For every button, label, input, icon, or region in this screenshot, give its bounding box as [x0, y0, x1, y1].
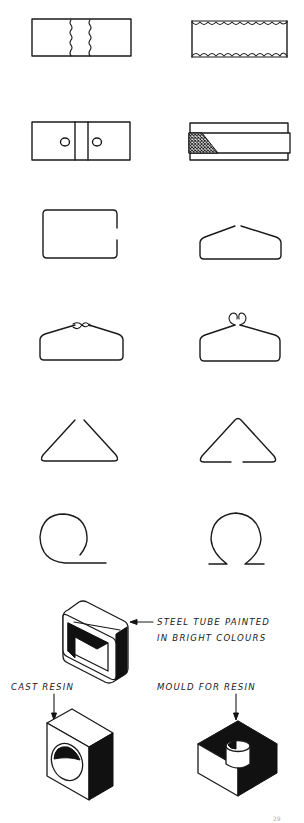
steel-tube-illustration	[63, 601, 128, 683]
omega-wire-shape	[209, 513, 264, 564]
cast-resin-arrow	[52, 694, 57, 720]
hanger-open-top-shape	[200, 226, 281, 259]
open-rectangle-wire-shape	[43, 210, 117, 258]
hanger-curl-loops-shape	[200, 313, 280, 361]
mould-arrow	[234, 694, 239, 720]
triangle-open-apex-shape	[41, 420, 117, 461]
rectangle-scalloped-shape	[192, 21, 287, 57]
label-cast-resin: CAST RESIN	[11, 682, 74, 692]
page-number: 29	[273, 815, 281, 822]
label-steel-tube-line2: IN BRIGHT COLOURS	[157, 633, 266, 643]
steel-tube-arrow	[130, 620, 153, 625]
mould-illustration	[198, 721, 277, 796]
rectangle-two-holes-shape	[32, 122, 130, 160]
triangle-open-base-shape	[200, 419, 275, 463]
diagram-canvas: STEEL TUBE PAINTED IN BRIGHT COLOURS CAS…	[0, 0, 304, 823]
hanger-twisted-loop-shape	[40, 323, 123, 360]
label-steel-tube-line1: STEEL TUBE PAINTED	[157, 617, 270, 627]
label-mould-for-resin: MOULD FOR RESIN	[157, 682, 256, 692]
cast-resin-block-illustration	[46, 709, 113, 800]
loop-with-tail-shape	[40, 514, 106, 563]
rectangle-wavy-seams-shape	[32, 19, 131, 56]
band-crosshatch-shape	[189, 123, 290, 160]
